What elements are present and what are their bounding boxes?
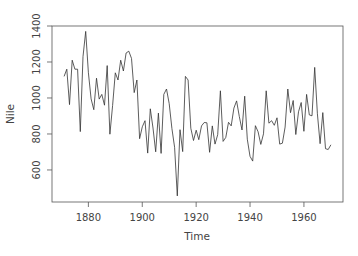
x-tick-label: 1940: [237, 212, 262, 223]
x-axis-label: Time: [183, 230, 210, 242]
y-axis-label: Nile: [4, 104, 16, 124]
x-tick-label: 1920: [183, 212, 208, 223]
x-axis: 18801900192019401960: [76, 202, 317, 223]
nile-line-chart: 600800100012001400 18801900192019401960 …: [0, 0, 358, 256]
y-tick-label: 1000: [31, 85, 42, 110]
y-tick-label: 1200: [31, 49, 42, 74]
plot-frame: [52, 26, 343, 202]
y-tick-label: 1400: [31, 13, 42, 38]
y-axis: 600800100012001400: [31, 13, 52, 179]
x-tick-label: 1900: [130, 212, 155, 223]
y-tick-label: 800: [31, 124, 42, 143]
nile-series-line: [64, 31, 331, 196]
y-tick-label: 600: [31, 160, 42, 179]
x-tick-label: 1960: [291, 212, 316, 223]
x-tick-label: 1880: [76, 212, 101, 223]
